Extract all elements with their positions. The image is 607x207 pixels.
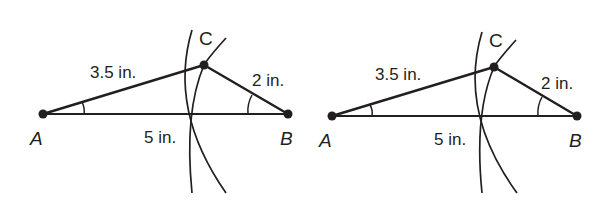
length-ab: 5 in. [144,128,176,147]
figure-left: A B C 3.5 in. 2 in. 5 in. [29,28,293,193]
point-c [200,61,209,70]
point-b [284,110,293,119]
length-ac: 3.5 in. [375,65,421,84]
angle-mark-b [248,95,252,114]
length-cb: 2 in. [252,71,284,90]
angle-mark-b [538,97,542,116]
length-ac: 3.5 in. [90,63,136,82]
point-a [328,112,337,121]
label-c: C [199,28,213,49]
point-a [39,110,48,119]
length-cb: 2 in. [541,74,573,93]
label-a: A [318,130,332,151]
label-b: B [569,130,582,151]
compass-arc-from-b [185,30,226,193]
figure-right: A B C 3.5 in. 2 in. 5 in. [318,30,582,193]
triangle-construction-diagrams: A B C 3.5 in. 2 in. 5 in. A B C 3.5 in. … [0,0,607,207]
label-b: B [280,128,293,149]
angle-mark-a [370,105,372,116]
label-c: C [489,30,503,51]
compass-arc-from-a [190,38,226,193]
angle-mark-a [82,102,84,114]
label-a: A [29,128,43,149]
length-ab: 5 in. [434,130,466,149]
point-c [490,63,499,72]
point-b [573,112,582,121]
diagram-canvas: A B C 3.5 in. 2 in. 5 in. A B C 3.5 in. … [0,0,607,207]
